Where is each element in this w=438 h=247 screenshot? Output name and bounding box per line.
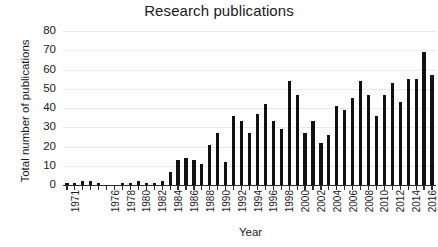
y-axis-tick-label: 60 <box>43 64 56 76</box>
bar <box>280 129 283 185</box>
bar <box>407 79 410 185</box>
x-axis-tick-label: 1996 <box>269 190 279 212</box>
y-axis-tick-label: 0 <box>50 179 56 191</box>
bar <box>192 160 195 185</box>
x-axis-tick-labels: 1971197619781980198219841986198819901992… <box>63 190 436 224</box>
bar <box>303 133 306 185</box>
x-axis-tick-label: 1998 <box>285 190 295 212</box>
x-axis-tick-label: 1986 <box>190 190 200 212</box>
x-axis-tick-label: 2004 <box>333 190 343 212</box>
bar <box>430 75 433 185</box>
bar <box>272 121 275 185</box>
bar <box>367 95 370 185</box>
bar <box>208 145 211 185</box>
bar <box>399 102 402 185</box>
y-axis-tick-label: 10 <box>43 160 56 172</box>
x-axis-tick-label: 2016 <box>428 190 438 212</box>
bar <box>383 95 386 185</box>
bar <box>335 106 338 185</box>
y-axis-tick-label: 50 <box>43 83 56 95</box>
x-axis-tick-label: 1976 <box>111 190 121 212</box>
bar <box>327 135 330 185</box>
bar <box>176 160 179 185</box>
y-axis-tick-label: 30 <box>43 122 56 134</box>
bar <box>319 143 322 185</box>
x-axis-tick-label: 2014 <box>412 190 422 212</box>
bar <box>391 83 394 185</box>
bar <box>296 95 299 185</box>
x-axis-tick-label: 2008 <box>365 190 375 212</box>
bar <box>184 158 187 185</box>
x-axis-tick-label: 1980 <box>142 190 152 212</box>
bar <box>232 116 235 185</box>
bar <box>240 121 243 185</box>
bar <box>169 172 172 185</box>
x-axis-tick-label: 2012 <box>396 190 406 212</box>
bar <box>248 133 251 185</box>
x-axis-tick-label: 1994 <box>254 190 264 212</box>
x-axis-tick-label: 1992 <box>238 190 248 212</box>
chart-title: Research publications <box>0 2 438 19</box>
x-axis-tick-label: 2010 <box>380 190 390 212</box>
bar <box>264 104 267 185</box>
bar <box>224 162 227 185</box>
bar <box>288 81 291 185</box>
plot-area <box>63 31 436 185</box>
y-axis-tick-labels: 01020304050607080 <box>0 31 61 185</box>
research-publications-chart: Research publications Total number of pu… <box>0 0 438 247</box>
x-axis-tick-label: 2000 <box>301 190 311 212</box>
y-axis-tick-label: 70 <box>43 45 56 57</box>
bar <box>200 164 203 185</box>
bar <box>415 79 418 185</box>
bar <box>422 52 425 185</box>
x-axis-tick-label: 2006 <box>349 190 359 212</box>
bar <box>216 133 219 185</box>
bar <box>375 116 378 185</box>
x-axis-tick-label: 1990 <box>222 190 232 212</box>
bar <box>256 114 259 185</box>
y-axis-tick-label: 80 <box>43 25 56 37</box>
bar-series <box>63 31 436 185</box>
bar <box>311 121 314 185</box>
x-axis-tick-label: 1982 <box>158 190 168 212</box>
x-axis-tick-label: 1984 <box>174 190 184 212</box>
x-axis-tick-label: 1978 <box>127 190 137 212</box>
y-axis-tick-label: 20 <box>43 141 56 153</box>
x-axis-tick-label: 2002 <box>317 190 327 212</box>
bar <box>351 98 354 185</box>
bar <box>343 110 346 185</box>
y-axis-tick-label: 40 <box>43 102 56 114</box>
x-axis-tick-label: 1988 <box>206 190 216 212</box>
bar <box>359 81 362 185</box>
x-axis-tick-label: 1971 <box>71 190 81 212</box>
x-axis-title: Year <box>63 226 438 238</box>
